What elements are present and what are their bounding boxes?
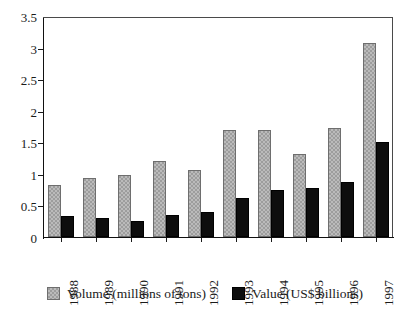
- bar-volume: [48, 185, 61, 237]
- bar-volume: [328, 128, 341, 237]
- bar-group: [48, 18, 74, 237]
- bar-volume: [293, 154, 306, 237]
- plot-area: [43, 17, 393, 238]
- x-tick-mark: [201, 238, 202, 242]
- bar-value: [271, 190, 284, 237]
- bar-group: [363, 18, 389, 237]
- y-tick-label: 2: [31, 105, 38, 118]
- chart-legend: Volume (millions of tons) Value (US$ bil…: [0, 286, 410, 301]
- x-tick-mark: [61, 238, 62, 242]
- bar-group: [153, 18, 179, 237]
- bar-group: [83, 18, 109, 237]
- bar-value: [201, 212, 214, 237]
- y-tick-label: 1.5: [21, 137, 37, 150]
- bar-volume: [153, 161, 166, 237]
- y-tick-label: 1: [31, 168, 38, 181]
- bar-value: [341, 182, 354, 237]
- bar-group: [258, 18, 284, 237]
- bar-group: [118, 18, 144, 237]
- bar-value: [306, 188, 319, 237]
- bar-value: [236, 198, 249, 237]
- bar-chart-figure: 00.511.522.533.5 19881989199019911992199…: [0, 0, 410, 315]
- y-tick-label: 3.5: [21, 11, 37, 24]
- bar-group: [223, 18, 249, 237]
- value-swatch-icon: [232, 287, 245, 300]
- x-tick-mark: [376, 238, 377, 242]
- bar-value: [96, 218, 109, 237]
- x-tick-mark: [341, 238, 342, 242]
- bar-volume: [363, 43, 376, 237]
- x-tick-mark: [236, 238, 237, 242]
- x-tick-mark: [131, 238, 132, 242]
- x-tick-mark: [96, 238, 97, 242]
- bar-group: [188, 18, 214, 237]
- y-tick-label: 0: [31, 232, 38, 245]
- x-tick-mark: [166, 238, 167, 242]
- bar-volume: [258, 130, 271, 237]
- legend-label-volume: Volume (millions of tons): [67, 286, 206, 301]
- y-axis: 00.511.522.533.5: [0, 0, 40, 315]
- bar-group: [328, 18, 354, 237]
- x-tick-mark: [271, 238, 272, 242]
- bar-group: [293, 18, 319, 237]
- y-tick-label: 0.5: [21, 200, 37, 213]
- bar-volume: [223, 130, 236, 237]
- volume-swatch-icon: [47, 287, 60, 300]
- x-axis: 1988198919901991199219931994199519961997: [43, 238, 393, 284]
- bar-volume: [188, 170, 201, 237]
- bar-volume: [118, 175, 131, 238]
- x-tick-mark: [306, 238, 307, 242]
- y-tick-label: 2.5: [21, 74, 37, 87]
- bar-value: [166, 215, 179, 237]
- bar-value: [131, 221, 144, 237]
- legend-label-value: Value (US$ billions): [252, 286, 363, 301]
- legend-item-value: Value (US$ billions): [232, 286, 363, 301]
- y-tick-label: 3: [31, 42, 38, 55]
- bars-layer: [44, 18, 392, 237]
- bar-value: [61, 216, 74, 237]
- bar-volume: [83, 178, 96, 237]
- legend-item-volume: Volume (millions of tons): [47, 286, 206, 301]
- bar-value: [376, 142, 389, 237]
